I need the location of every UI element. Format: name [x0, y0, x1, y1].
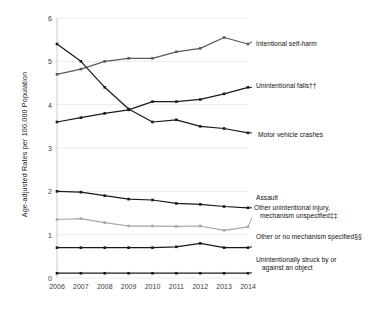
legend-item-label: Other or no mechanism specified§§ — [256, 233, 362, 241]
x-tick-label: 2014 — [233, 283, 263, 290]
legend-item-label: Unintentionally struck by oragainst an o… — [256, 256, 337, 273]
legend-item-line: Other unintentional injury, — [254, 204, 337, 212]
legend-item-line: Other or no mechanism specified§§ — [256, 233, 362, 241]
legend-item-line: against an object — [256, 264, 337, 272]
legend-item-line: Assault — [256, 194, 278, 202]
legend-item-line: Unintentional falls†† — [256, 82, 316, 90]
legend-item-line: mechanism unspecified‡‡ — [254, 212, 337, 220]
legend-item-label: Intentional self-harm — [256, 40, 317, 48]
legend-item-line: Unintentionally struck by or — [256, 256, 337, 264]
legend-item-line: Motor vehicle crashes — [258, 131, 323, 139]
legend-item-label: Unintentional falls†† — [256, 82, 316, 90]
legend-item-label: Motor vehicle crashes — [258, 131, 323, 139]
legend-item-label: Assault — [256, 194, 278, 202]
chart-figure: Age-adjusted Rates per 100,000 Populatio… — [0, 0, 385, 310]
legend-item-label: Other unintentional injury,mechanism uns… — [254, 204, 337, 221]
legend-item-line: Intentional self-harm — [256, 40, 317, 48]
